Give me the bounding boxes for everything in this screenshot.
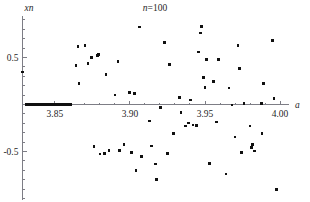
- data-point: [77, 45, 80, 48]
- data-point: [93, 145, 96, 148]
- data-point: [148, 120, 151, 123]
- data-point: [34, 103, 37, 106]
- data-point: [159, 106, 162, 109]
- data-point: [195, 124, 198, 127]
- data-point: [28, 103, 31, 106]
- data-point: [215, 121, 218, 124]
- data-point: [128, 91, 131, 94]
- data-point: [200, 25, 203, 28]
- data-point: [99, 153, 102, 156]
- data-point: [187, 122, 190, 125]
- data-point: [168, 63, 171, 66]
- data-point: [138, 26, 141, 29]
- data-point: [90, 56, 93, 59]
- data-point: [78, 82, 81, 85]
- data-point: [163, 41, 166, 44]
- y-axis-tick-label: -0.5: [3, 147, 18, 157]
- chart-title: n=100: [143, 3, 168, 13]
- data-point: [31, 103, 34, 106]
- data-point: [150, 145, 153, 148]
- data-point: [212, 80, 215, 83]
- data-point: [275, 188, 278, 191]
- data-point: [240, 151, 243, 154]
- data-point: [204, 86, 207, 89]
- data-point: [225, 173, 228, 176]
- data-point: [228, 87, 231, 90]
- data-point: [130, 151, 133, 154]
- data-point: [103, 152, 106, 155]
- data-point: [231, 104, 234, 107]
- data-point: [123, 143, 126, 146]
- data-point: [271, 39, 274, 42]
- data-point: [40, 103, 43, 106]
- x-axis-tick-label: 4.00: [272, 109, 289, 119]
- data-point: [199, 32, 202, 35]
- data-point: [237, 44, 240, 47]
- data-point: [166, 152, 169, 155]
- data-point: [97, 53, 100, 56]
- x-axis-tick-label: 3.85: [47, 109, 64, 119]
- data-point: [217, 58, 220, 61]
- data-point: [154, 163, 157, 166]
- data-point: [133, 92, 136, 95]
- data-point: [238, 67, 241, 70]
- data-point: [234, 136, 237, 139]
- y-axis-label: xn: [24, 3, 34, 13]
- data-point: [192, 124, 195, 127]
- data-point: [49, 103, 52, 106]
- x-axis-tick-label: 3.95: [197, 109, 214, 119]
- data-point: [55, 103, 58, 106]
- data-point: [205, 58, 208, 61]
- data-point: [21, 71, 24, 74]
- data-point: [251, 143, 254, 146]
- data-point: [61, 103, 64, 106]
- data-point: [273, 97, 276, 100]
- data-point: [69, 103, 72, 106]
- y-axis-tick-label: 0.5: [7, 53, 19, 63]
- data-point: [46, 103, 49, 106]
- data-point: [184, 125, 187, 128]
- data-point: [249, 125, 252, 128]
- data-point: [105, 73, 108, 76]
- data-point: [75, 64, 78, 67]
- data-point: [114, 94, 117, 97]
- data-point: [155, 178, 158, 181]
- data-point: [250, 146, 253, 149]
- data-point: [52, 103, 55, 106]
- data-point: [197, 51, 200, 54]
- scatter-plot-figure: 3.853.903.954.000.5-0.5xnan=100: [0, 0, 310, 202]
- data-point: [64, 103, 67, 106]
- data-point: [135, 169, 138, 172]
- data-point: [140, 155, 143, 158]
- data-point: [58, 103, 61, 106]
- data-point: [43, 103, 46, 106]
- data-point: [172, 132, 175, 135]
- chart-canvas: 3.853.903.954.000.5-0.5xnan=100: [0, 0, 310, 202]
- data-point: [118, 149, 121, 152]
- data-point: [261, 132, 264, 135]
- data-point: [67, 103, 70, 106]
- data-point: [178, 96, 181, 99]
- data-point: [84, 44, 87, 47]
- x-axis-label: a: [295, 100, 300, 110]
- data-point: [37, 103, 40, 106]
- data-point: [108, 149, 111, 152]
- data-point: [260, 102, 263, 105]
- x-axis-tick-label: 3.90: [122, 109, 139, 119]
- data-point: [87, 62, 90, 65]
- data-point: [253, 150, 256, 153]
- data-point: [117, 60, 120, 63]
- data-point: [243, 102, 246, 105]
- data-point: [189, 99, 192, 102]
- data-point: [180, 111, 183, 114]
- data-point: [25, 103, 28, 106]
- data-point: [262, 82, 265, 85]
- data-point: [208, 162, 211, 165]
- data-point: [202, 76, 205, 79]
